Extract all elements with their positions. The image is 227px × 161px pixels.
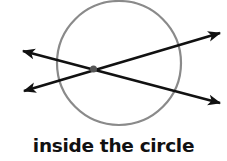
caption-label: inside the circle	[0, 134, 227, 158]
line-1	[23, 51, 220, 103]
intersecting-lines-diagram	[0, 0, 227, 135]
line-2	[24, 33, 220, 91]
intersection-point	[90, 66, 97, 73]
